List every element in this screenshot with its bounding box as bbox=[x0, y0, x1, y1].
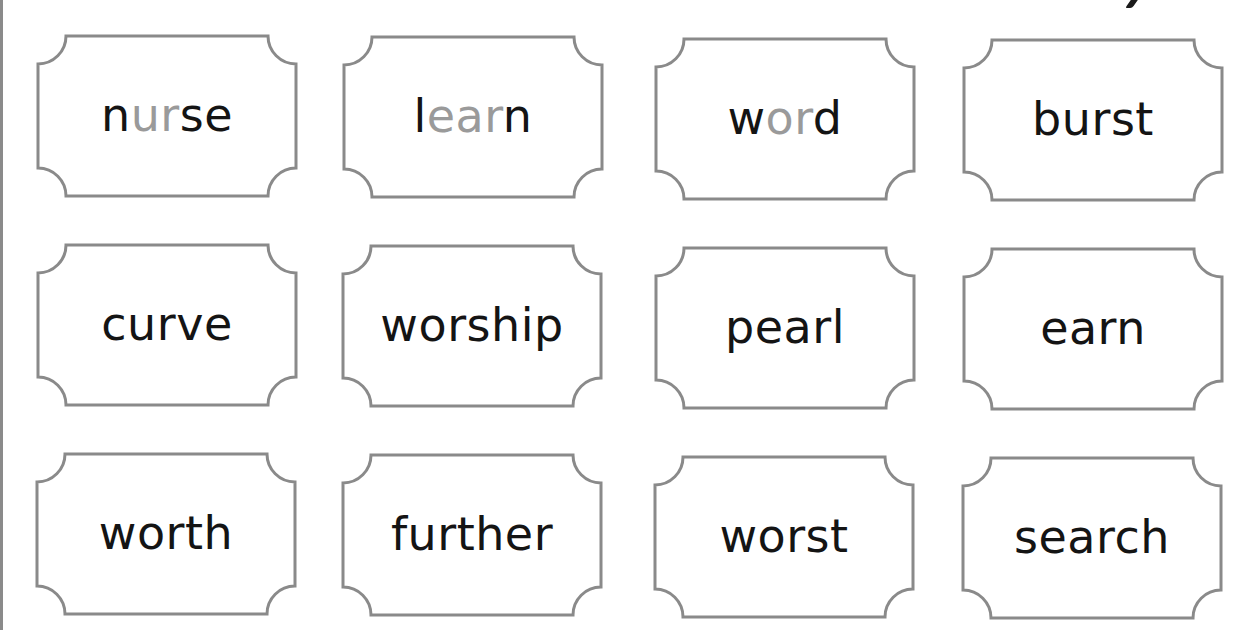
card-word: learn bbox=[340, 89, 606, 143]
card-word: earn bbox=[960, 301, 1226, 355]
highlighted-letters: ur bbox=[131, 88, 180, 142]
word-letters: curve bbox=[101, 297, 232, 351]
word-letters: worship bbox=[380, 298, 563, 352]
card-word: curve bbox=[34, 297, 300, 351]
word-card-further[interactable]: further bbox=[339, 452, 605, 618]
word-letters: se bbox=[180, 88, 233, 142]
cropped-heading-fragment bbox=[1125, 0, 1138, 8]
word-letters: search bbox=[1014, 510, 1170, 564]
word-card-word[interactable]: word bbox=[652, 36, 918, 202]
word-card-worst[interactable]: worst bbox=[651, 454, 917, 620]
word-letters: further bbox=[391, 507, 553, 561]
word-card-worship[interactable]: worship bbox=[339, 243, 605, 409]
word-letters: d bbox=[813, 91, 843, 145]
word-letters: pearl bbox=[725, 300, 845, 354]
word-card-search[interactable]: search bbox=[959, 455, 1225, 621]
word-card-worth[interactable]: worth bbox=[33, 451, 299, 617]
highlighted-letters: or bbox=[766, 91, 813, 145]
left-page-rule bbox=[0, 0, 3, 630]
card-word: worship bbox=[339, 298, 605, 352]
word-card-nurse[interactable]: nurse bbox=[34, 33, 300, 199]
card-word: pearl bbox=[652, 300, 918, 354]
word-card-burst[interactable]: burst bbox=[960, 37, 1226, 203]
card-word: further bbox=[339, 507, 605, 561]
highlighted-letters: ear bbox=[427, 89, 503, 143]
card-word: worth bbox=[33, 506, 299, 560]
card-word: word bbox=[652, 91, 918, 145]
word-card-earn[interactable]: earn bbox=[960, 246, 1226, 412]
word-letters: n bbox=[101, 88, 131, 142]
word-letters: worst bbox=[719, 509, 848, 563]
card-word: worst bbox=[651, 509, 917, 563]
word-letters: w bbox=[727, 91, 765, 145]
word-card-pearl[interactable]: pearl bbox=[652, 245, 918, 411]
word-letters: worth bbox=[99, 506, 233, 560]
word-letters: n bbox=[503, 89, 533, 143]
word-card-curve[interactable]: curve bbox=[34, 242, 300, 408]
word-letters: earn bbox=[1040, 301, 1146, 355]
word-letters: burst bbox=[1032, 92, 1154, 146]
card-word: search bbox=[959, 510, 1225, 564]
word-letters: l bbox=[413, 89, 426, 143]
card-word: nurse bbox=[34, 88, 300, 142]
card-word: burst bbox=[960, 92, 1226, 146]
word-card-learn[interactable]: learn bbox=[340, 34, 606, 200]
